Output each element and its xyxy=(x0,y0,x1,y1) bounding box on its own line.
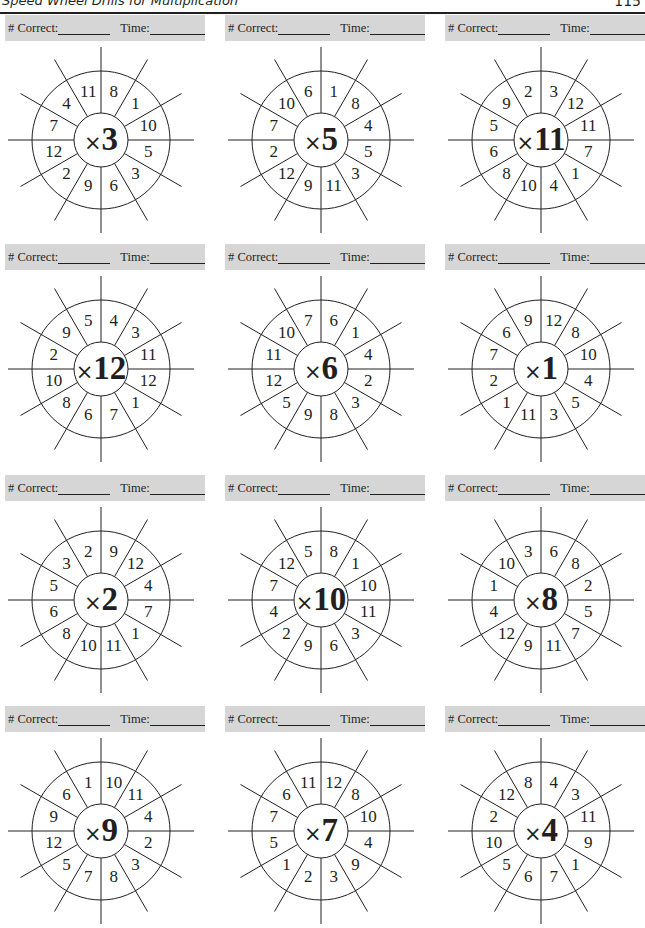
segment-number: 2 xyxy=(54,164,78,184)
segment-number: 12 xyxy=(542,311,566,331)
segment-number: 9 xyxy=(102,542,126,562)
segment-number: 3 xyxy=(564,785,588,805)
segment-number: 8 xyxy=(102,867,126,887)
segment-number: 1 xyxy=(76,773,100,793)
multiplier-label: ×11 xyxy=(511,119,571,159)
segment-number: 5 xyxy=(42,576,66,596)
segment-number: 12 xyxy=(274,554,298,574)
segment-number: 11 xyxy=(576,116,600,136)
drill-cell: # Correct:Time:811011369247125×10 xyxy=(220,475,435,705)
segment-number: 4 xyxy=(542,773,566,793)
speed-wheel: 312117141086592×11 xyxy=(440,15,645,230)
multiplier-factor: 4 xyxy=(542,812,559,848)
times-sign: × xyxy=(296,591,314,615)
segment-number: 1 xyxy=(482,576,506,596)
segment-number: 6 xyxy=(76,405,100,425)
segment-number: 3 xyxy=(344,164,368,184)
segment-number: 7 xyxy=(564,624,588,644)
segment-number: 3 xyxy=(322,867,346,887)
segment-number: 11 xyxy=(356,602,380,622)
segment-number: 2 xyxy=(516,82,540,102)
segment-number: 1 xyxy=(322,82,346,102)
times-sign: × xyxy=(304,131,322,155)
segment-number: 2 xyxy=(136,833,160,853)
speed-wheel: 128104531112769×1 xyxy=(440,244,645,459)
segment-number: 9 xyxy=(296,405,320,425)
segment-number: 7 xyxy=(296,311,320,331)
segment-number: 3 xyxy=(124,855,148,875)
segment-number: 2 xyxy=(356,371,380,391)
multiplier-label: ×1 xyxy=(511,348,571,388)
times-sign: × xyxy=(84,131,102,155)
segment-number: 12 xyxy=(262,371,286,391)
segment-number: 4 xyxy=(54,94,78,114)
segment-number: 11 xyxy=(516,405,540,425)
times-sign: × xyxy=(76,360,94,384)
segment-number: 4 xyxy=(356,116,380,136)
segment-number: 7 xyxy=(262,116,286,136)
segment-number: 4 xyxy=(542,176,566,196)
segment-number: 7 xyxy=(42,116,66,136)
times-sign: × xyxy=(304,360,322,384)
segment-number: 7 xyxy=(76,867,100,887)
drill-cell: # Correct:Time:614238951211107×6 xyxy=(220,244,435,474)
drill-cell: # Correct:Time:811053692127411×3 xyxy=(0,15,215,245)
drill-cell: # Correct:Time:128104932157611×7 xyxy=(220,706,435,928)
segment-number: 5 xyxy=(576,602,600,622)
segment-number: 1 xyxy=(124,94,148,114)
segment-number: 6 xyxy=(54,785,78,805)
multiplier-factor: 9 xyxy=(102,812,119,848)
segment-number: 7 xyxy=(262,576,286,596)
segment-number: 9 xyxy=(576,833,600,853)
segment-number: 9 xyxy=(296,176,320,196)
segment-number: 8 xyxy=(102,82,126,102)
segment-number: 11 xyxy=(576,807,600,827)
segment-number: 1 xyxy=(564,164,588,184)
drill-cell: # Correct:Time:682571191241103×8 xyxy=(440,475,645,705)
segment-number: 10 xyxy=(494,554,518,574)
segment-number: 10 xyxy=(576,345,600,365)
segment-number: 11 xyxy=(296,773,320,793)
segment-number: 8 xyxy=(516,773,540,793)
segment-number: 3 xyxy=(542,405,566,425)
segment-number: 4 xyxy=(356,833,380,853)
segment-number: 4 xyxy=(482,602,506,622)
segment-number: 5 xyxy=(482,116,506,136)
segment-number: 6 xyxy=(322,311,346,331)
page-number: 115 xyxy=(614,0,641,9)
segment-number: 5 xyxy=(76,311,100,331)
segment-number: 7 xyxy=(102,405,126,425)
segment-number: 7 xyxy=(482,345,506,365)
segment-number: 4 xyxy=(356,345,380,365)
segment-number: 11 xyxy=(124,785,148,805)
segment-number: 11 xyxy=(322,176,346,196)
drill-cell: # Correct:Time:128104531112769×1 xyxy=(440,244,645,474)
page-title: Speed Wheel Drills for Multiplication xyxy=(2,0,238,8)
header-rule xyxy=(0,12,645,14)
times-sign: × xyxy=(524,591,542,615)
speed-wheel: 614238951211107×6 xyxy=(220,244,435,459)
segment-number: 3 xyxy=(516,542,540,562)
segment-number: 6 xyxy=(542,542,566,562)
segment-number: 7 xyxy=(136,602,160,622)
multiplier-factor: 5 xyxy=(322,121,339,157)
multiplier-factor: 2 xyxy=(102,581,119,617)
multiplier-label: ×6 xyxy=(291,348,351,388)
segment-number: 8 xyxy=(344,785,368,805)
segment-number: 3 xyxy=(542,82,566,102)
segment-number: 6 xyxy=(494,323,518,343)
segment-number: 8 xyxy=(322,542,346,562)
segment-number: 12 xyxy=(564,94,588,114)
segment-number: 1 xyxy=(344,554,368,574)
multiplier-label: ×2 xyxy=(71,579,131,619)
segment-number: 11 xyxy=(76,82,100,102)
segment-number: 5 xyxy=(564,393,588,413)
segment-number: 4 xyxy=(102,311,126,331)
speed-wheel: 912471111086532×2 xyxy=(0,475,215,690)
multiplier-factor: 6 xyxy=(322,350,339,386)
segment-number: 9 xyxy=(54,323,78,343)
speed-wheel: 431112176810295×12 xyxy=(0,244,215,459)
segment-number: 10 xyxy=(42,371,66,391)
speed-wheel: 184531191227106×5 xyxy=(220,15,435,230)
segment-number: 11 xyxy=(136,345,160,365)
